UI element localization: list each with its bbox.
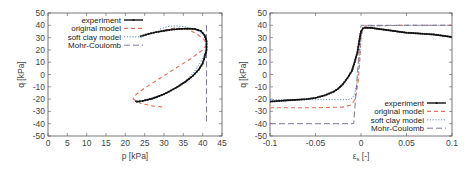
y-tick-label: -50 [33, 131, 46, 141]
data-point [287, 99, 289, 101]
x-tick-label: 10 [82, 138, 92, 148]
y-tick-label: -30 [255, 106, 268, 116]
data-point [359, 38, 361, 40]
data-point [351, 70, 353, 72]
data-point [347, 77, 349, 79]
data-point [417, 33, 419, 35]
y-tick-label: 40 [36, 20, 46, 30]
data-point [197, 29, 199, 31]
data-point [159, 95, 161, 97]
data-point [352, 68, 354, 70]
y-tick-label: 20 [36, 45, 46, 55]
data-point [204, 36, 206, 38]
data-point [424, 33, 426, 35]
x-tick-label: 20 [121, 138, 131, 148]
data-point [431, 34, 433, 36]
data-point [415, 32, 417, 34]
data-point [310, 98, 312, 100]
data-point [161, 30, 163, 32]
data-point [303, 98, 305, 100]
y-tick-label: -30 [33, 106, 46, 116]
data-point [442, 35, 444, 37]
data-point [308, 98, 310, 100]
data-point [152, 98, 154, 100]
data-point [426, 33, 428, 35]
data-point [403, 32, 405, 34]
y-tick-label: 20 [258, 45, 268, 55]
data-point [181, 83, 183, 85]
data-point [144, 99, 146, 101]
data-point [335, 89, 337, 91]
data-point [342, 83, 344, 85]
data-point [435, 34, 437, 36]
data-point [422, 33, 424, 35]
data-point [177, 86, 179, 88]
data-point [278, 100, 280, 102]
data-point [408, 32, 410, 34]
x-tick-label: 30 [159, 138, 169, 148]
legend: experimentoriginal modelsoft clay modelM… [371, 99, 446, 133]
data-point [374, 28, 376, 30]
data-point [345, 79, 347, 81]
data-point [189, 28, 191, 30]
data-point [358, 43, 360, 45]
data-point [205, 38, 207, 40]
x-tick-label: 40 [198, 138, 208, 148]
data-point [172, 88, 174, 90]
data-point [447, 36, 449, 38]
data-point [387, 29, 389, 31]
data-point [292, 99, 294, 101]
data-point [184, 81, 186, 83]
data-point [168, 91, 170, 93]
x-tick-label: 0 [46, 138, 51, 148]
x-axis-label: p [kPa] [122, 151, 148, 161]
data-point [205, 52, 207, 54]
data-point [200, 30, 202, 32]
data-point [324, 95, 326, 97]
y-tick-label: -10 [255, 82, 268, 92]
data-point [392, 30, 394, 32]
data-point [271, 101, 273, 103]
legend-label: Mohr-Coulomb [68, 41, 121, 50]
data-point [390, 30, 392, 32]
y-tick-label: -40 [255, 119, 268, 129]
data-point [179, 28, 181, 30]
x-tick-label: 15 [101, 138, 111, 148]
data-point [186, 28, 188, 30]
data-point [406, 32, 408, 34]
data-point [397, 31, 399, 33]
data-point [353, 64, 355, 66]
data-point [196, 71, 198, 73]
data-point [204, 56, 206, 58]
data-point [176, 28, 178, 30]
data-point [355, 56, 357, 58]
data-point [149, 98, 151, 100]
y-tick-label: 40 [258, 20, 268, 30]
x-tick-label: 35 [179, 138, 189, 148]
data-point [356, 54, 358, 56]
x-tick-label: 0 [359, 138, 364, 148]
data-point [367, 27, 369, 29]
x-tick-label: 0.05 [398, 138, 415, 148]
y-axis-label: q [kPa] [16, 61, 26, 87]
data-point [354, 59, 356, 61]
x-tick-label: 45 [217, 138, 227, 148]
data-point [163, 30, 165, 32]
data-point [204, 34, 206, 36]
data-point [158, 31, 160, 33]
data-point [394, 30, 396, 32]
data-point [357, 52, 359, 54]
data-point [319, 96, 321, 98]
data-point [354, 61, 356, 63]
data-point [206, 40, 208, 42]
x-tick-label: -0.1 [263, 138, 278, 148]
data-point [381, 28, 383, 30]
series-original-model [133, 28, 206, 107]
data-point [166, 30, 168, 32]
y-tick-label: 0 [262, 70, 267, 80]
data-point [358, 40, 360, 42]
data-point [186, 79, 188, 81]
y-tick-label: -20 [255, 94, 268, 104]
data-point [202, 63, 204, 65]
data-point [419, 33, 421, 35]
